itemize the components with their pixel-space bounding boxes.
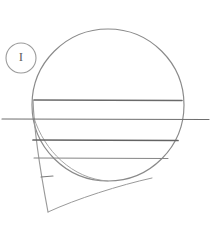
callout-label: I: [19, 49, 23, 64]
tail-diagonal-edge: [48, 178, 152, 212]
tick-mark: [41, 176, 53, 177]
chord-line-2: [2, 119, 209, 120]
sketch-drawing: I: [0, 0, 211, 228]
chord-line-3: [33, 140, 178, 141]
chord-line-1: [34, 100, 182, 101]
callout-badge[interactable]: I: [6, 43, 36, 73]
tail-left-edge: [33, 100, 48, 212]
sketch-canvas: I: [0, 0, 211, 228]
chord-line-4: [34, 158, 168, 159]
